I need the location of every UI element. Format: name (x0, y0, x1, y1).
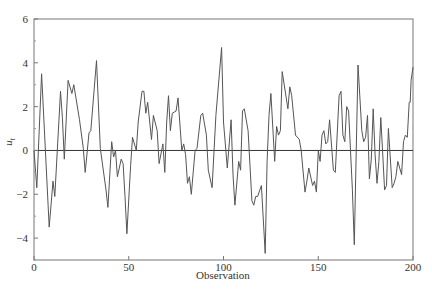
y-tick-label: 6 (23, 13, 29, 25)
y-axis-label-group: ut (2, 137, 17, 146)
y-tick-label: 4 (23, 57, 29, 69)
chart-canvas: −4−20246 050100150200 Observation ut (0, 0, 432, 293)
x-tick-label: 150 (310, 261, 327, 273)
x-tick-label: 200 (405, 261, 422, 273)
x-axis-label: Observation (196, 269, 250, 281)
y-tick-label: −4 (16, 232, 28, 244)
x-tick-label: 0 (31, 261, 37, 273)
y-axis-ticks: −4−20246 (16, 13, 38, 260)
y-axis-label: ut (2, 137, 17, 146)
y-tick-label: −2 (16, 188, 28, 200)
y-tick-label: 2 (23, 101, 29, 113)
x-tick-label: 50 (123, 261, 135, 273)
y-tick-label: 0 (23, 144, 29, 156)
